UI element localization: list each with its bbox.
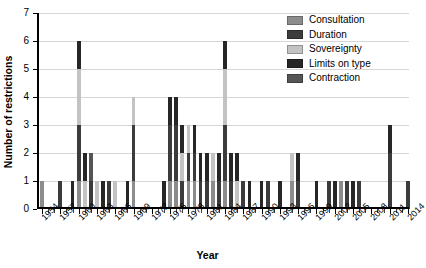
legend-swatch-icon xyxy=(287,59,303,68)
legend-item-sovereignty[interactable]: Sovereignty xyxy=(287,42,405,57)
x-axis-tick-labels: 1954195719601963196619691972197519781981… xyxy=(39,213,409,247)
y-tick-label-7: 7 xyxy=(1,8,29,18)
y-tick-label-2: 2 xyxy=(1,148,29,158)
legend-item-duration[interactable]: Duration xyxy=(287,28,405,43)
legend-item-limits-on-type[interactable]: Limits on type xyxy=(287,57,405,72)
y-tick-label-5: 5 xyxy=(1,64,29,74)
legend-swatch-icon xyxy=(287,74,303,83)
x-axis-title: Year xyxy=(0,249,415,261)
y-tick-label-1: 1 xyxy=(1,176,29,186)
y-axis-ticks: 01234567 xyxy=(0,13,33,209)
legend-item-consultation[interactable]: Consultation xyxy=(287,13,405,28)
y-tick-label-0: 0 xyxy=(1,204,29,214)
y-tick-label-6: 6 xyxy=(1,36,29,46)
legend-label: Consultation xyxy=(309,15,365,25)
legend-swatch-icon xyxy=(287,16,303,25)
legend-label: Sovereignty xyxy=(309,44,362,54)
legend-label: Duration xyxy=(309,30,347,40)
y-tick-label-4: 4 xyxy=(1,92,29,102)
legend-item-contraction[interactable]: Contraction xyxy=(287,71,405,86)
legend-swatch-icon xyxy=(287,45,303,54)
y-tick-mark-0 xyxy=(33,209,37,210)
chart-legend: ConsultationDurationSovereigntyLimits on… xyxy=(283,10,409,90)
legend-label: Contraction xyxy=(309,73,360,83)
legend-swatch-icon xyxy=(287,30,303,39)
legend-label: Limits on type xyxy=(309,59,371,69)
y-tick-label-3: 3 xyxy=(1,120,29,130)
